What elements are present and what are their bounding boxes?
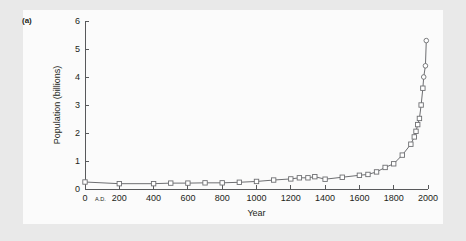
y-axis-title: Population (billions) xyxy=(52,66,62,145)
x-tick-label: 1800 xyxy=(384,193,404,203)
data-point-square[interactable] xyxy=(421,86,425,90)
data-point-square[interactable] xyxy=(323,177,327,181)
data-point-square[interactable] xyxy=(409,142,413,146)
screenshot-root: (a) 012345602004006008001000120014001600… xyxy=(0,0,466,241)
y-tick-label: 5 xyxy=(75,44,80,54)
x-tick-label: 0 xyxy=(82,193,87,203)
data-point-square[interactable] xyxy=(254,179,258,183)
x-tick-label: 1600 xyxy=(349,193,369,203)
data-point-square[interactable] xyxy=(313,174,317,178)
data-point-square[interactable] xyxy=(220,181,224,185)
axis-spines xyxy=(85,21,428,189)
population-chart: 0123456020040060080010001200140016001800… xyxy=(0,0,466,241)
data-point-square[interactable] xyxy=(151,181,155,185)
data-point-square[interactable] xyxy=(419,103,423,107)
data-point-square[interactable] xyxy=(366,172,370,176)
x-tick-label: 2000 xyxy=(418,193,438,203)
era-annotation: A.D. xyxy=(95,196,106,202)
data-point-square[interactable] xyxy=(417,116,421,120)
x-tick-label: 400 xyxy=(146,193,161,203)
y-tick-label: 2 xyxy=(75,128,80,138)
data-line xyxy=(85,41,426,184)
data-point-circle[interactable] xyxy=(421,75,426,80)
data-point-square[interactable] xyxy=(83,180,87,184)
data-point-square[interactable] xyxy=(392,162,396,166)
data-point-square[interactable] xyxy=(340,175,344,179)
x-tick-label: 1000 xyxy=(246,193,266,203)
x-tick-label: 1200 xyxy=(281,193,301,203)
data-point-square[interactable] xyxy=(117,181,121,185)
x-tick-label: 800 xyxy=(215,193,230,203)
data-point-square[interactable] xyxy=(271,178,275,182)
data-point-square[interactable] xyxy=(412,135,416,139)
x-tick-label: 600 xyxy=(180,193,195,203)
x-tick-label: 1400 xyxy=(315,193,335,203)
data-point-square[interactable] xyxy=(383,165,387,169)
data-point-square[interactable] xyxy=(306,176,310,180)
data-point-square[interactable] xyxy=(169,181,173,185)
data-point-square[interactable] xyxy=(237,180,241,184)
data-point-square[interactable] xyxy=(416,122,420,126)
y-tick-label: 4 xyxy=(75,72,80,82)
data-point-square[interactable] xyxy=(414,129,418,133)
y-tick-label: 6 xyxy=(75,16,80,26)
data-point-square[interactable] xyxy=(289,177,293,181)
data-point-square[interactable] xyxy=(203,181,207,185)
data-point-square[interactable] xyxy=(297,176,301,180)
x-tick-label: 200 xyxy=(112,193,127,203)
x-axis-title: Year xyxy=(247,208,265,218)
data-point-square[interactable] xyxy=(374,170,378,174)
y-tick-label: 1 xyxy=(75,156,80,166)
y-tick-label: 3 xyxy=(75,100,80,110)
data-point-circle[interactable] xyxy=(424,38,429,43)
data-point-square[interactable] xyxy=(357,173,361,177)
data-point-square[interactable] xyxy=(400,153,404,157)
y-tick-label: 0 xyxy=(75,184,80,194)
data-point-square[interactable] xyxy=(186,181,190,185)
data-point-circle[interactable] xyxy=(423,64,428,69)
